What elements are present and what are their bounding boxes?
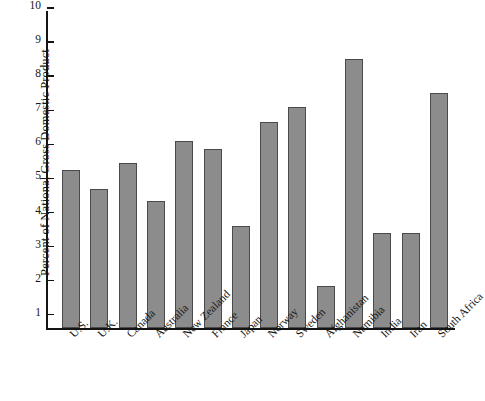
y-tick-mark xyxy=(47,314,54,315)
y-tick-mark xyxy=(47,144,54,145)
y-tick-mark xyxy=(47,246,54,247)
y-tick-mark xyxy=(47,280,54,281)
y-tick-label: 2 xyxy=(35,273,41,285)
y-tick-label: 9 xyxy=(35,34,41,46)
y-tick-mark xyxy=(47,178,54,179)
y-tick-label: 4 xyxy=(35,205,41,217)
y-tick-mark xyxy=(47,110,54,111)
y-tick-mark xyxy=(47,212,54,213)
bar xyxy=(119,163,137,328)
bar xyxy=(430,93,448,328)
y-tick-label: 5 xyxy=(35,170,41,182)
y-tick-label: 6 xyxy=(35,136,41,148)
y-tick-mark xyxy=(47,7,54,8)
x-axis-labels: U.S.U.K.CanadaAustraliaNew ZealandFrance… xyxy=(46,332,471,401)
bar xyxy=(62,170,80,328)
bar xyxy=(260,122,278,328)
bar xyxy=(345,59,363,328)
y-tick-label: 3 xyxy=(35,239,41,251)
y-tick-mark xyxy=(47,75,54,76)
y-axis-line xyxy=(46,11,48,330)
plot-area: 12345678910 xyxy=(46,8,455,330)
bar xyxy=(90,189,108,329)
y-tick-label: 1 xyxy=(35,307,41,319)
y-tick-label: 7 xyxy=(35,102,41,114)
y-tick-mark xyxy=(47,41,54,42)
bar xyxy=(288,107,306,329)
bar xyxy=(175,141,193,328)
y-tick-label: 10 xyxy=(30,0,42,12)
bar xyxy=(402,233,420,328)
y-tick-label: 8 xyxy=(35,68,41,80)
